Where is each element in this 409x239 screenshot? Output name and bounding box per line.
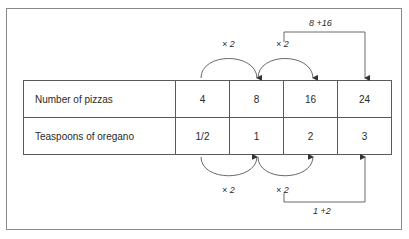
arc-arrow-icon (258, 59, 313, 79)
arrows-overlay (0, 0, 409, 239)
top-arc-label: × 2 (276, 39, 289, 49)
top-arc-label: × 2 (222, 39, 235, 49)
bracket-arrow-icon (284, 32, 365, 78)
bottom-arc-label: × 2 (276, 185, 289, 195)
top-bracket-label: 8 +16 (309, 18, 332, 28)
arc-arrow-icon (201, 157, 257, 176)
bracket-arrow-icon (284, 157, 365, 202)
arc-arrow-icon (201, 59, 257, 79)
arc-arrow-icon (258, 157, 313, 176)
bottom-bracket-label: 1 +2 (313, 206, 331, 216)
bottom-arc-label: × 2 (222, 185, 235, 195)
